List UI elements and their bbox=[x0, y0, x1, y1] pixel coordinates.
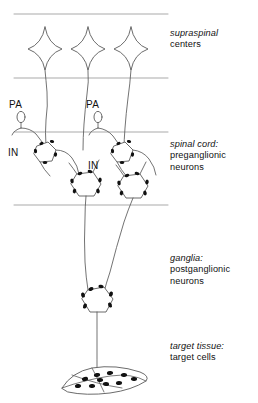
in-1-soma bbox=[34, 142, 56, 162]
supraspinal-neuron-2 bbox=[71, 27, 105, 150]
supraspinal-neuron-3 bbox=[114, 27, 148, 150]
ganglion-soma bbox=[82, 287, 113, 312]
primary-afferent-1 bbox=[12, 111, 44, 148]
pathway-illustration bbox=[0, 0, 258, 403]
primary-afferent-2 bbox=[89, 111, 121, 150]
preganglionic-neuron-2 bbox=[104, 162, 148, 292]
diagram-canvas: supraspinal centers spinal cord: pregang… bbox=[0, 0, 258, 403]
in-2-soma bbox=[111, 142, 133, 162]
pa-1-soma bbox=[17, 111, 25, 122]
interneuron-2 bbox=[111, 142, 156, 177]
supraspinal-neuron-1 bbox=[28, 27, 62, 146]
postganglionic-neuron bbox=[82, 287, 113, 368]
preganglionic-neuron-1 bbox=[69, 160, 101, 290]
interneuron-1 bbox=[34, 142, 79, 176]
pa-2-soma bbox=[94, 111, 102, 122]
